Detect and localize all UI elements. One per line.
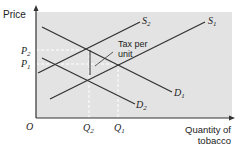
tax-annotation-line2: unit (118, 49, 133, 59)
q2-label: Q2 (83, 122, 94, 135)
x-axis-label-line1: Quantity of (185, 124, 231, 135)
q1-label: Q1 (114, 122, 125, 135)
x-axis-label-line2: tobacco (198, 135, 231, 146)
y-axis-label: Price (3, 9, 26, 20)
p1-label: P1 (20, 58, 31, 71)
origin-label: O (26, 121, 33, 132)
y-axis-arrow-icon (34, 5, 39, 11)
tax-annotation-line1: Tax per (118, 39, 148, 49)
p2-label: P2 (20, 45, 31, 58)
plot-area (36, 12, 232, 118)
supply-demand-diagram: Price Quantity of tobacco O P2 P1 Q2 Q1 … (0, 0, 247, 149)
